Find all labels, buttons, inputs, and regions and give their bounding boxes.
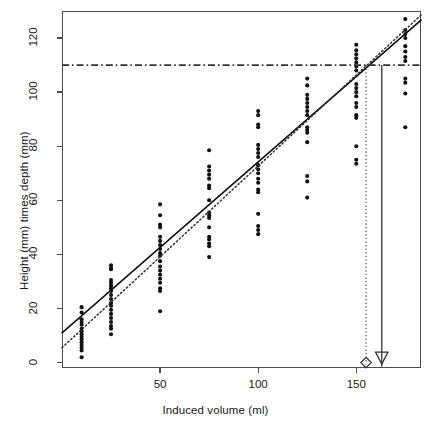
y-tick-mark xyxy=(57,362,62,363)
x-tick-label: 100 xyxy=(238,378,278,390)
y-tick-label: 20 xyxy=(27,293,39,323)
x-axis-title: Induced volume (ml) xyxy=(0,404,431,416)
y-tick-mark xyxy=(57,91,62,92)
x-tick-mark xyxy=(258,368,259,373)
y-tick-mark xyxy=(57,308,62,309)
y-tick-mark xyxy=(57,254,62,255)
y-tick-mark xyxy=(57,146,62,147)
x-tick-label: 150 xyxy=(336,378,376,390)
y-tick-label: 120 xyxy=(27,22,39,52)
y-tick-mark xyxy=(57,200,62,201)
y-axis-title: Height (mm) times depth (mm) xyxy=(18,131,30,290)
y-tick-label: 0 xyxy=(27,347,39,377)
scatter-plot-figure: 020406080100120 50100150 Induced volume … xyxy=(0,0,431,429)
x-tick-mark xyxy=(356,368,357,373)
x-tick-label: 50 xyxy=(140,378,180,390)
plot-frame xyxy=(62,11,421,368)
y-tick-mark xyxy=(57,37,62,38)
x-tick-mark xyxy=(159,368,160,373)
y-tick-label: 100 xyxy=(27,76,39,106)
